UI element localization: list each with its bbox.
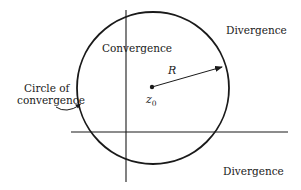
radius-label: R bbox=[167, 64, 176, 77]
divergence-label-top: Divergence bbox=[226, 24, 287, 36]
circle-label-line2: convergence bbox=[17, 94, 85, 106]
circle-label-line1: Circle of bbox=[24, 82, 71, 94]
convergence-diagram: Convergence Divergence Divergence Circle… bbox=[0, 0, 301, 190]
radius-arrow bbox=[152, 67, 222, 87]
divergence-label-bottom: Divergence bbox=[223, 165, 284, 177]
center-point-label: z0 bbox=[145, 93, 157, 108]
center-point-label-subscript: 0 bbox=[152, 99, 157, 108]
convergence-label: Convergence bbox=[102, 42, 172, 54]
